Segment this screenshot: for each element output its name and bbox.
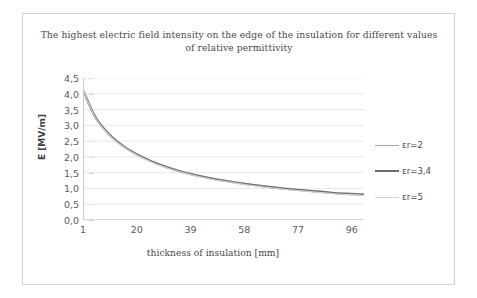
- y-tick-label: 4,5: [37, 73, 79, 84]
- y-tick-label: 3,5: [37, 104, 79, 115]
- y-tick-label: 2,5: [37, 136, 79, 147]
- chart-frame: The highest electric field intensity on …: [22, 13, 455, 285]
- y-tick-label: 2,0: [37, 151, 79, 162]
- x-axis-tick-labels: 12039587796: [83, 224, 363, 240]
- legend-item[interactable]: εr=2: [375, 132, 453, 158]
- series-line: [84, 92, 364, 194]
- x-tick-label: 58: [224, 224, 264, 235]
- legend-item[interactable]: εr=3,4: [375, 158, 453, 184]
- legend-label: εr=5: [402, 192, 423, 202]
- x-tick-label: 39: [170, 224, 210, 235]
- chart-title: The highest electric field intensity on …: [37, 28, 441, 54]
- y-tick-label: 4,0: [37, 88, 79, 99]
- y-tick-label: 1,0: [37, 183, 79, 194]
- y-tick-label: 0,5: [37, 199, 79, 210]
- legend-swatch: [375, 197, 399, 198]
- y-tick-mark: [89, 220, 93, 221]
- legend-label: εr=3,4: [402, 166, 431, 176]
- y-tick-label: 1,5: [37, 167, 79, 178]
- x-tick-label: 20: [117, 224, 157, 235]
- chart-legend: εr=2εr=3,4εr=5: [375, 132, 453, 210]
- y-tick-label: 3,0: [37, 120, 79, 131]
- legend-item[interactable]: εr=5: [375, 184, 453, 210]
- plot-area: [83, 78, 363, 220]
- legend-swatch: [375, 170, 399, 172]
- x-axis-title: thickness of insulation [mm]: [63, 247, 363, 258]
- series-line: [84, 92, 364, 195]
- x-tick-label: 77: [278, 224, 318, 235]
- legend-swatch: [375, 145, 399, 146]
- x-tick-label: 96: [332, 224, 372, 235]
- y-axis-tick-labels: 0,00,51,01,52,02,53,03,54,04,5: [33, 78, 79, 220]
- legend-label: εr=2: [402, 140, 423, 150]
- x-tick-label: 1: [63, 224, 103, 235]
- plot-svg: [84, 78, 364, 220]
